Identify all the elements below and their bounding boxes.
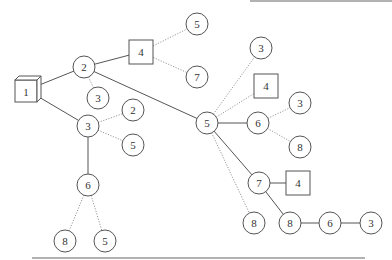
- node-label: 3: [258, 42, 264, 54]
- node-n8a: 8: [54, 230, 76, 252]
- node-label: 6: [255, 117, 261, 129]
- edge-n5d-n3c: [207, 48, 261, 123]
- nodes-layer: 123325457685534638748863: [15, 13, 382, 252]
- node-n5d: 5: [196, 112, 218, 134]
- node-n3e: 3: [360, 212, 382, 234]
- node-n7a: 7: [186, 66, 208, 88]
- node-label: 6: [85, 179, 91, 191]
- node-label: 3: [297, 97, 303, 109]
- node-label: 2: [81, 61, 87, 73]
- node-n8b: 8: [289, 136, 311, 158]
- node-n5b: 5: [186, 13, 208, 35]
- node-label: 5: [194, 18, 200, 30]
- node-n6b: 6: [247, 112, 269, 134]
- node-n3a: 3: [87, 87, 109, 109]
- node-n3b: 3: [77, 115, 99, 137]
- node-label: 3: [85, 120, 91, 132]
- node-label: 5: [102, 235, 108, 247]
- node-n2: 2: [73, 56, 95, 78]
- node-n8c: 8: [243, 212, 265, 234]
- node-n6c: 6: [319, 212, 341, 234]
- node-n6a: 6: [77, 174, 99, 196]
- node-label: 4: [138, 46, 144, 58]
- node-label: 8: [62, 235, 68, 247]
- edge-n5d-n8c: [207, 123, 254, 223]
- node-label: 6: [327, 217, 333, 229]
- node-label: 4: [263, 80, 269, 92]
- tree-diagram: 123325457685534638748863: [0, 0, 392, 260]
- node-label: 8: [297, 141, 303, 153]
- node-n5a: 5: [122, 134, 144, 156]
- node-label: 3: [95, 92, 101, 104]
- node-n3d: 3: [289, 92, 311, 114]
- node-n1: 1: [15, 76, 41, 102]
- cube-node-face: [37, 76, 41, 102]
- node-n8d: 8: [279, 212, 301, 234]
- node-label: 8: [251, 217, 257, 229]
- node-label: 8: [287, 217, 293, 229]
- node-label: 2: [130, 104, 136, 116]
- node-label: 4: [295, 177, 301, 189]
- node-n7b: 7: [248, 172, 270, 194]
- node-label: 7: [194, 71, 200, 83]
- node-n4c: 4: [286, 171, 310, 195]
- node-label: 5: [130, 139, 136, 151]
- node-n4a: 4: [129, 40, 153, 64]
- node-n2b: 2: [122, 99, 144, 121]
- node-label: 1: [23, 86, 29, 98]
- node-n4b: 4: [254, 74, 278, 98]
- node-label: 5: [204, 117, 210, 129]
- node-n5c: 5: [94, 230, 116, 252]
- node-label: 3: [368, 217, 374, 229]
- node-label: 7: [256, 177, 262, 189]
- node-n3c: 3: [250, 37, 272, 59]
